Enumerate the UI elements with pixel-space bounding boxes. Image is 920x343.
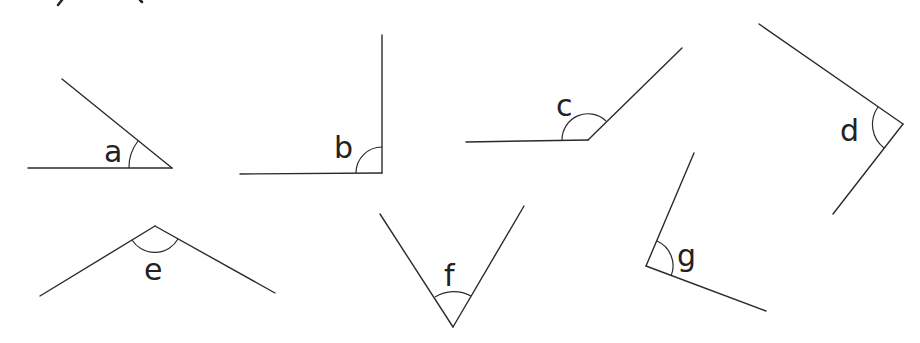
angle-a-label: a bbox=[104, 134, 122, 169]
angle-b: b bbox=[240, 35, 382, 174]
angle-e-arc bbox=[132, 239, 178, 252]
angle-f-label: f bbox=[444, 258, 456, 293]
angle-d-label: d bbox=[840, 113, 859, 148]
angle-c: c bbox=[466, 48, 682, 142]
angle-e: e bbox=[40, 226, 275, 296]
angle-g-label: g bbox=[677, 238, 696, 273]
cropped-heading-fragment bbox=[58, 0, 142, 5]
angle-e-label: e bbox=[144, 252, 162, 287]
angle-g: g bbox=[646, 153, 766, 311]
angle-b-arc bbox=[356, 147, 382, 173]
angle-c-label: c bbox=[556, 88, 573, 123]
angle-a-arc bbox=[129, 141, 138, 168]
angle-d-arc bbox=[872, 107, 884, 148]
angle-a: a bbox=[28, 79, 172, 169]
angle-b-label: b bbox=[334, 130, 353, 165]
angle-d: d bbox=[759, 24, 903, 214]
angle-f: f bbox=[380, 206, 524, 327]
angles-diagram: a b c d e f g bbox=[0, 0, 920, 343]
